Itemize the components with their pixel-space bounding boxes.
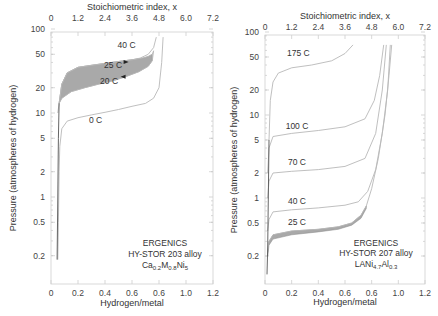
y-tick-label: 5 <box>40 133 45 143</box>
right-chart: Stoichiometric index, x 01.22.43.64.86.0… <box>229 11 431 307</box>
top-x-tick-label: 3.6 <box>339 22 351 32</box>
y-tick-label: 20 <box>36 83 46 93</box>
isotherm-label: 25 C <box>104 60 122 70</box>
top-x-tick-label: 7.2 <box>419 22 431 32</box>
top-x-tick-label: 1.2 <box>286 22 298 32</box>
left-annotation-line1: ERGENICS <box>143 238 188 248</box>
isotherm-label: 40 C <box>118 40 136 50</box>
x-tick-label: 1.2 <box>419 288 431 298</box>
x-tick-label: 0.2 <box>286 288 298 298</box>
right-x-axis-ticks: 00.20.40.60.61.01.2 <box>263 280 432 298</box>
right-top-axis-ticks: 01.22.43.64.86.07.2 <box>263 22 432 39</box>
y-tick-label: 50 <box>36 49 46 59</box>
x-tick-label: 1.0 <box>180 288 192 298</box>
left-x-axis-title: Hydrogen/metal <box>100 298 164 308</box>
left-top-axis-title: Stoichiometric index, x <box>87 2 178 12</box>
isotherm-label: 40 C <box>288 196 306 206</box>
left-chart: Stoichiometric index, x 01.22.43.64.86.0… <box>8 2 219 308</box>
x-tick-label: 0.2 <box>72 288 84 298</box>
isotherm-25c <box>268 45 392 253</box>
top-x-tick-label: 3.6 <box>126 13 138 23</box>
y-tick-label: 1 <box>40 192 45 202</box>
right-top-axis-title: Stoichiometric index, x <box>300 11 391 21</box>
y-tick-label: 2 <box>254 168 259 178</box>
right-annotation-formula: LANi4.7Al0.3 <box>355 259 398 270</box>
left-x-axis-ticks: 00.20.40.60.61.01.2 <box>49 280 220 298</box>
top-x-tick-label: 4.8 <box>153 13 165 23</box>
figure: Stoichiometric index, x 01.22.43.64.86.0… <box>0 0 438 316</box>
isotherm-label: 25 C <box>288 217 306 227</box>
top-x-tick-label: 1.2 <box>72 13 84 23</box>
right-annotation-line1: ERGENICS <box>354 238 399 248</box>
x-tick-label: 0.6 <box>153 288 165 298</box>
x-tick-label: 0.4 <box>99 288 111 298</box>
y-tick-label: 20 <box>250 85 260 95</box>
isotherm-label: 0 C <box>89 115 102 125</box>
isotherm-label: 70 C <box>288 157 306 167</box>
isotherm-label: 100 C <box>286 121 309 131</box>
y-tick-label: 0.2 <box>247 251 259 261</box>
y-tick-label: 0.2 <box>33 251 45 261</box>
y-tick-label: 0.5 <box>33 217 45 227</box>
left-annotation-formula: Ca0.2M0.8Ni5 <box>142 260 189 271</box>
isotherm-label: 175 C <box>287 48 310 58</box>
x-tick-label: 1.2 <box>207 288 219 298</box>
top-x-tick-label: 7.2 <box>207 13 219 23</box>
right-annotation-line2: HY-STOR 207 alloy <box>339 248 413 258</box>
left-top-axis-ticks: 01.22.43.64.86.07.2 <box>49 13 220 36</box>
top-x-tick-label: 6.0 <box>392 22 404 32</box>
y-tick-label: 100 <box>245 27 259 37</box>
top-x-tick-label: 0 <box>263 22 268 32</box>
y-tick-label: 10 <box>36 108 46 118</box>
y-tick-label: 50 <box>250 52 260 62</box>
right-alloy-annotation: ERGENICS HY-STOR 207 alloy LANi4.7Al0.3 <box>339 238 413 270</box>
x-tick-label: 0 <box>49 288 54 298</box>
y-tick-label: 10 <box>250 110 260 120</box>
top-x-tick-label: 6.0 <box>180 13 192 23</box>
isotherm-100-c <box>268 45 384 173</box>
x-tick-label: 0.6 <box>126 288 138 298</box>
top-x-tick-label: 0 <box>49 13 54 23</box>
top-x-tick-label: 4.8 <box>366 22 378 32</box>
x-tick-label: 0 <box>263 288 268 298</box>
left-y-axis-title: Pressure (atmospheres of hydrogen) <box>8 85 18 232</box>
top-x-tick-label: 2.4 <box>312 22 324 32</box>
isotherm-40-c <box>268 45 391 231</box>
isotherm-175-c <box>269 45 353 140</box>
y-tick-label: 1 <box>254 193 259 203</box>
y-tick-label: 5 <box>254 135 259 145</box>
x-tick-label: 1.0 <box>392 288 404 298</box>
isotherm-label: 20 C <box>100 76 118 86</box>
left-alloy-annotation: ERGENICS HY-STOR 203 alloy Ca0.2M0.8Ni5 <box>128 238 202 271</box>
y-tick-label: 2 <box>40 167 45 177</box>
y-tick-label: 100 <box>31 24 45 34</box>
y-tick-label: 0.5 <box>247 218 259 228</box>
right-x-axis-title: Hydrogen/metal <box>313 297 377 307</box>
left-annotation-line2: HY-STOR 203 alloy <box>128 249 202 259</box>
top-x-tick-label: 2.4 <box>99 13 111 23</box>
right-y-axis-ticks: 1005020105210.50.2 <box>245 27 425 261</box>
left-plot-area: 40 C25 C20 C0 C <box>57 37 163 260</box>
right-y-axis-title: Pressure (atmospheres of hydrogen) <box>229 87 239 234</box>
